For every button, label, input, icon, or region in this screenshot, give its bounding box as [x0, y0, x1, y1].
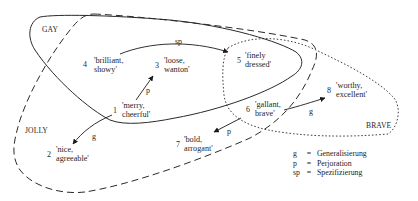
node-gloss-line1: 'nice,	[56, 145, 73, 154]
node-gloss-line2: showy'	[94, 65, 117, 74]
node-number: 5	[237, 56, 241, 65]
legend-row-sp: sp= Spezifizierung	[293, 168, 362, 178]
node-gloss-line2: agreeable'	[56, 154, 89, 163]
node-gloss-line1: 'bold,	[184, 135, 202, 144]
node-number: 2	[47, 150, 51, 159]
semantic-change-diagram: GAY JOLLY BRAVE 4 'brilliant, showy' 3 '…	[0, 0, 418, 201]
legend-row-p: p= Perjoration	[293, 159, 352, 169]
node-number: 6	[246, 105, 250, 114]
node-gloss-line1: 'loose,	[164, 56, 185, 65]
edge-label-p-1-3: p	[146, 86, 150, 95]
edge-1-to-3	[136, 76, 153, 100]
node-gloss-line2: arrogant'	[184, 144, 213, 153]
node-number: 7	[176, 140, 180, 149]
node-number: 3	[155, 61, 159, 70]
set-label-brave: BRAVE	[366, 121, 391, 130]
edge-label-g-1-2: g	[92, 132, 96, 141]
node-number: 1	[113, 106, 117, 115]
node-gloss-line2: excellent'	[336, 90, 367, 99]
set-label-gay: GAY	[42, 25, 58, 34]
node-gloss-line1: 'worthy,	[336, 81, 362, 90]
node-number: 4	[83, 60, 87, 69]
edge-label-p-6-7: p	[227, 127, 231, 136]
node-gloss-line1: 'merry,	[122, 101, 145, 110]
node-gloss-line2: dressed'	[245, 60, 271, 69]
node-gloss-line1: 'brilliant,	[94, 56, 123, 65]
set-label-jolly: JOLLY	[25, 126, 48, 135]
edge-6-to-8	[284, 98, 325, 110]
node-gloss-line2: cheerful'	[122, 110, 150, 119]
legend-row-g: g= Generalisierung	[293, 149, 367, 159]
node-gloss-line1: 'gallant,	[255, 100, 281, 109]
edge-label-g-6-8: g	[309, 107, 313, 116]
edge-label-sp: sp	[175, 37, 182, 46]
node-gloss-line2: brave'	[255, 109, 275, 118]
node-gloss-line2: wanton'	[164, 65, 190, 74]
node-gloss-line1: 'finely	[245, 51, 266, 60]
edge-4-to-5	[120, 44, 228, 54]
node-number: 8	[327, 86, 331, 95]
